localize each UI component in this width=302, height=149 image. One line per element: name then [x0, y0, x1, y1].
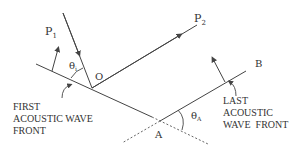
- last-wavefront-pointer: [230, 82, 236, 96]
- last-wavefront-caption: LAST ACOUSTIC WAVE FRONT: [223, 95, 288, 130]
- acoustic-wave-diagram: P1 P2 θi O A B θA FIRST ACOUSTIC WAVE FR…: [0, 0, 302, 149]
- svg-text:FIRST: FIRST: [13, 101, 40, 112]
- first-wavefront-pointer: [62, 85, 70, 98]
- svg-text:LAST: LAST: [223, 95, 248, 106]
- p2-label: P2: [194, 12, 206, 27]
- theta-i-label: θi: [69, 60, 77, 72]
- o-label: O: [95, 71, 103, 82]
- first-wavefront-caption: FIRST ACOUSTIC WAVE FRONT: [13, 101, 93, 136]
- svg-text:ACOUSTIC WAVE: ACOUSTIC WAVE: [13, 113, 93, 124]
- svg-text:WAVE FRONT: WAVE FRONT: [223, 119, 288, 130]
- b-label: B: [255, 58, 262, 69]
- theta-a-label: θA: [191, 110, 202, 122]
- first-wavefront-line: [36, 64, 152, 117]
- a-label: A: [154, 129, 163, 140]
- last-wavefront-normal-arrow: [213, 59, 225, 82]
- svg-text:FRONT: FRONT: [13, 125, 46, 136]
- incident-ray-arrow: [63, 13, 79, 54]
- svg-text:ACOUSTIC: ACOUSTIC: [223, 107, 273, 118]
- theta-a-arc: [178, 110, 183, 130]
- reflected-ray-arrow: [92, 35, 180, 88]
- first-wavefront-normal-arrow: [52, 49, 58, 71]
- p1-label: P1: [45, 25, 57, 40]
